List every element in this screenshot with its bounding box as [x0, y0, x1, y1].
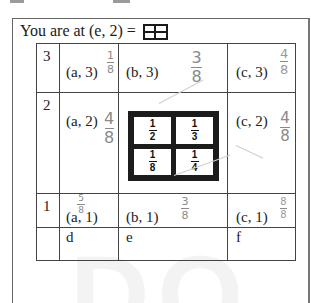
fraction-tile-eighth: 18 — [134, 149, 171, 176]
row-label: 3 — [43, 48, 51, 65]
handwritten-fraction: 48 — [280, 47, 288, 76]
coord-label: (a, 1) — [66, 209, 98, 226]
coordinate-grid: 3 (a, 3) 18 (b, 3) 38 (c, 3) 48 2 (a, 2) — [36, 43, 296, 261]
grid-row-3: 3 (a, 3) 18 (b, 3) 38 (c, 3) 48 — [37, 44, 296, 93]
grid-cell-b3: (b, 3) 38 — [119, 44, 228, 93]
handwritten-fraction: 88 — [280, 197, 287, 220]
grid-cell-c2: (c, 2) 48 — [228, 93, 296, 194]
column-label: f — [236, 229, 241, 246]
empty-corner-cell — [37, 228, 60, 261]
grid-cell-a2: (a, 2) 48 — [60, 93, 119, 194]
column-label-row: d e f — [37, 228, 296, 261]
grid-row-2: 2 (a, 2) 48 12 13 18 14 — [37, 93, 296, 194]
grid-cell-b1: (b, 1) 38 — [119, 194, 228, 228]
coord-label: (c, 1) — [236, 209, 268, 226]
scan-artifact — [113, 0, 130, 3]
row-label: 2 — [43, 97, 51, 114]
scan-artifact — [10, 0, 24, 3]
location-prompt: You are at (e, 2) = — [20, 22, 136, 40]
coord-label: (c, 2) — [236, 113, 268, 130]
grid-cell-a3: (a, 3) 18 — [60, 44, 119, 93]
grid-cell-c1: (c, 1) 88 — [228, 194, 296, 228]
row-label: 1 — [43, 198, 51, 215]
handwritten-fraction: 48 — [104, 111, 114, 146]
grid-cell-a1: 58 (a, 1) — [60, 194, 119, 228]
column-label-cell: d — [60, 228, 119, 261]
row-label-cell: 1 — [37, 194, 60, 228]
column-label-cell: e — [119, 228, 228, 261]
row-label-cell: 3 — [37, 44, 60, 93]
column-label: d — [66, 229, 74, 246]
coord-label: (c, 3) — [236, 64, 268, 81]
fraction-tile-half: 12 — [134, 117, 171, 144]
handwritten-fraction: 48 — [280, 111, 290, 144]
row-label-cell: 2 — [37, 93, 60, 194]
pencil-mark — [236, 145, 264, 159]
current-location-fraction-board: 12 13 18 14 — [128, 111, 219, 181]
handwritten-fraction: 38 — [181, 196, 189, 221]
coord-label: (a, 3) — [66, 64, 98, 81]
coord-label: (b, 3) — [126, 64, 159, 81]
handwritten-fraction: 18 — [107, 50, 114, 75]
grid-2x2-icon — [143, 24, 168, 40]
column-label: e — [126, 229, 133, 246]
grid-cell-b2: 12 13 18 14 — [119, 93, 228, 194]
fraction-tile-third: 13 — [176, 117, 213, 144]
grid-row-1: 1 58 (a, 1) (b, 1) 38 (c, 1) 88 — [37, 194, 296, 228]
column-label-cell: f — [228, 228, 296, 261]
grid-cell-c3: (c, 3) 48 — [228, 44, 296, 93]
coord-label: (a, 2) — [66, 113, 98, 130]
coord-label: (b, 1) — [126, 209, 159, 226]
